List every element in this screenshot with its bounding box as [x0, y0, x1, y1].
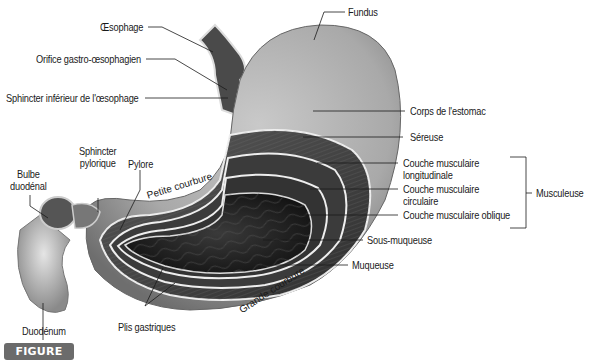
label-pylore: Pylore: [128, 158, 153, 170]
duodenal-bulb-shape: [40, 197, 76, 229]
label-bulbe-line1: Bulbe: [17, 168, 40, 180]
label-sphincter-pylorique: Sphincter pylorique: [79, 145, 116, 169]
label-fundus: Fundus: [348, 6, 378, 18]
label-couche-circulaire-line1: Couche musculaire: [403, 183, 479, 195]
label-sereuse: Séreuse: [410, 131, 443, 143]
label-orifice-gastro-oesophagien: Orifice gastro-œsophagien: [36, 53, 141, 65]
stomach-anatomy-diagram: Œsophage Orifice gastro-œsophagien Sphin…: [0, 0, 593, 361]
label-oesophage: Œsophage: [100, 21, 143, 33]
label-sphincter-inferieur: Sphincter inférieur de l'œsophage: [6, 92, 139, 104]
label-bulbe-duodenal: Bulbe duodénal: [10, 168, 47, 192]
label-couche-oblique: Couche musculaire oblique: [403, 209, 510, 221]
label-sphincter-pylorique-line2: pylorique: [80, 157, 116, 169]
figure-badge: FIGURE 53.2: [4, 343, 74, 360]
label-duodenum: Duodénum: [22, 325, 66, 337]
label-sous-muqueuse: Sous-muqueuse: [367, 234, 432, 246]
label-couche-circulaire-line2: circulaire: [403, 195, 438, 207]
label-couche-longitudinale-line2: longitudinale: [403, 169, 453, 181]
label-couche-longitudinale-line1: Couche musculaire: [403, 157, 479, 169]
label-bulbe-line2: duodénal: [10, 180, 47, 192]
label-musculeuse: Musculeuse: [536, 187, 584, 199]
label-couche-circulaire: Couche musculaire circulaire: [403, 183, 479, 207]
label-sphincter-pylorique-line1: Sphincter: [79, 145, 116, 157]
label-corps-estomac: Corps de l'estomac: [410, 105, 486, 117]
figure-badge-prefix: FIGURE: [16, 345, 63, 358]
label-muqueuse: Muqueuse: [352, 259, 394, 271]
label-couche-longitudinale: Couche musculaire longitudinale: [403, 157, 479, 181]
label-plis-gastriques: Plis gastriques: [118, 321, 175, 333]
